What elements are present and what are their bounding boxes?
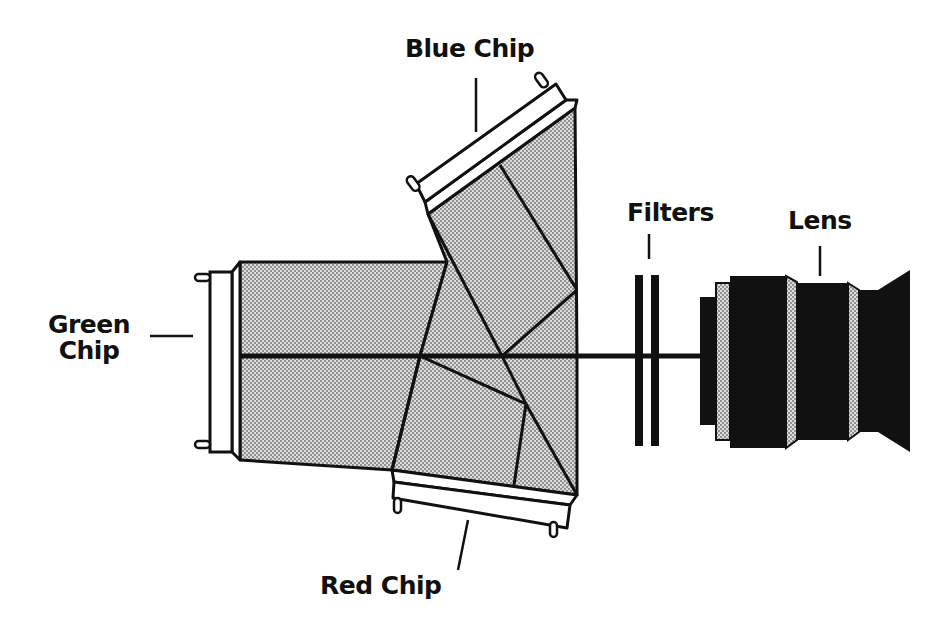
red-chip-label: Red Chip	[320, 573, 441, 599]
green-chip-label: Green Chip	[40, 312, 138, 365]
filters	[635, 275, 659, 446]
green-chip-sensor	[195, 262, 240, 460]
camera-prism-diagram	[0, 0, 948, 643]
green-chip-label-line1: Green	[40, 312, 138, 338]
lens-label: Lens	[788, 208, 852, 234]
red-chip-leader	[458, 520, 468, 570]
filters-label: Filters	[627, 200, 714, 226]
green-chip-label-line2: Chip	[40, 338, 138, 364]
lens	[700, 270, 910, 452]
blue-chip-label: Blue Chip	[405, 36, 534, 62]
